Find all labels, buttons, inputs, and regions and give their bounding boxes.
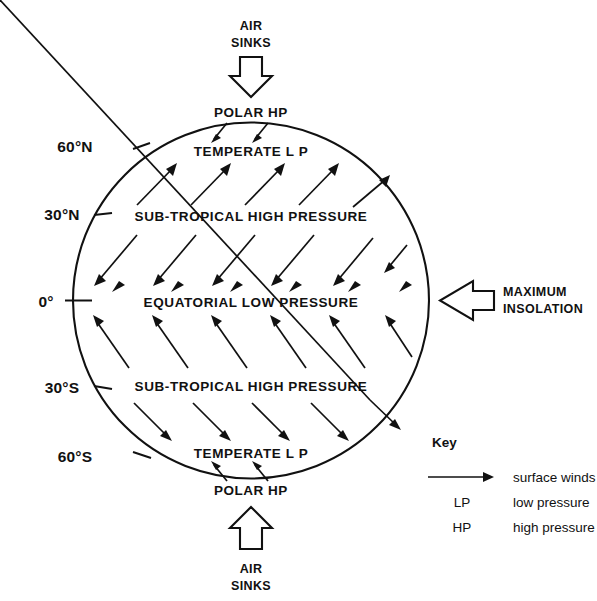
diagram-canvas: 60°N 30°N 0° 30°S 60°S AIR SINKS AIR SIN… [0, 0, 597, 601]
band-label-polar-hp-north: POLAR HP [214, 105, 288, 120]
max-insolation-line1: MAXIMUM [503, 285, 567, 299]
latitude-label-30n: 30°N [44, 206, 79, 223]
latitude-label-60s: 60°S [58, 448, 93, 465]
bottom-air-sinks-line1: AIR [240, 562, 263, 576]
surface-wind-arrows [0, 0, 412, 481]
key-row-label-low-pressure: low pressure [513, 495, 590, 510]
band-label-temperate-lp-north: TEMPERATE L P [194, 144, 309, 159]
global-circulation-diagram: 60°N 30°N 0° 30°S 60°S AIR SINKS AIR SIN… [0, 0, 597, 601]
key-arrow-right-head-icon [483, 472, 494, 482]
key-legend: Key surface winds LP low pressure HP hig… [428, 435, 596, 535]
latitude-label-equator: 0° [38, 293, 53, 310]
key-row-label-high-pressure: high pressure [513, 520, 595, 535]
key-title: Key [432, 435, 457, 450]
top-air-sinks-line1: AIR [240, 19, 263, 33]
band-label-equatorial-low: EQUATORIAL LOW PRESSURE [144, 295, 359, 310]
hollow-arrow-up-icon [230, 507, 272, 549]
latitude-label-30s: 30°S [45, 379, 80, 396]
latitude-label-60n: 60°N [57, 138, 92, 155]
key-symbol-lp: LP [454, 495, 471, 510]
wind-arrow-group-trades-north [94, 235, 407, 286]
band-label-temperate-lp-south: TEMPERATE L P [194, 446, 309, 461]
band-label-polar-hp-south: POLAR HP [214, 483, 288, 498]
band-label-subtropical-high-north: SUB-TROPICAL HIGH PRESSURE [135, 209, 368, 224]
max-insolation-line2: INSOLATION [503, 302, 583, 316]
top-air-sinks-line2: SINKS [231, 36, 271, 50]
wind-arrow-group-trades-south [93, 315, 412, 368]
hollow-arrow-left-icon [440, 281, 494, 320]
wind-arrow-group-westerlies-north [137, 163, 390, 207]
key-row-label-surface-winds: surface winds [513, 470, 596, 485]
hollow-arrow-down-icon [230, 57, 272, 97]
key-symbol-hp: HP [453, 520, 472, 535]
latitude-tick-60s [133, 452, 151, 458]
band-label-subtropical-high-south: SUB-TROPICAL HIGH PRESSURE [135, 379, 368, 394]
bottom-air-sinks-line2: SINKS [231, 579, 271, 593]
